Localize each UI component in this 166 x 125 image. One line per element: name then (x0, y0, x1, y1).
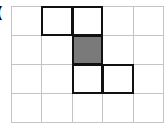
grid-cell (41, 64, 72, 94)
grid-cell (102, 93, 133, 123)
grid-cell (11, 35, 42, 65)
outlined-square (72, 6, 103, 36)
grid-cell (133, 35, 164, 65)
option-label: ( (0, 4, 2, 19)
square-grid (11, 6, 163, 122)
grid-cell (133, 64, 164, 94)
outlined-square (102, 64, 133, 94)
outlined-square (72, 64, 103, 94)
grid-cell (41, 35, 72, 65)
grid-cell (102, 35, 133, 65)
grid-cell (11, 93, 42, 123)
grid-cell (11, 6, 42, 36)
grid-cell (11, 64, 42, 94)
grid-cell (102, 6, 133, 36)
grid-cell (133, 93, 164, 123)
outlined-square (41, 6, 72, 36)
grid-cell (72, 93, 103, 123)
grid-cell (41, 93, 72, 123)
grid-cell (133, 6, 164, 36)
shaded-square (72, 35, 103, 65)
